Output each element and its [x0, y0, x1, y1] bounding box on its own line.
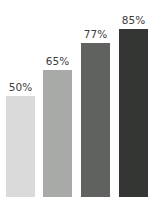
bar-group-3: 77% — [81, 43, 110, 197]
bar-label-1: 50% — [9, 81, 32, 93]
bar-label-3: 77% — [84, 28, 107, 40]
bar-group-1: 50% — [6, 96, 35, 197]
bar-label-4: 85% — [122, 14, 145, 26]
plot-area: 50% 65% 77% 85% — [0, 0, 154, 207]
bar-4 — [119, 29, 148, 197]
bar-3 — [81, 43, 110, 197]
bar-group-4: 85% — [119, 29, 148, 197]
bar-2 — [43, 70, 72, 197]
bar-chart: 50% 65% 77% 85% — [0, 0, 154, 207]
bar-group-2: 65% — [43, 70, 72, 197]
bar-1 — [6, 96, 35, 197]
bar-label-2: 65% — [46, 55, 69, 67]
